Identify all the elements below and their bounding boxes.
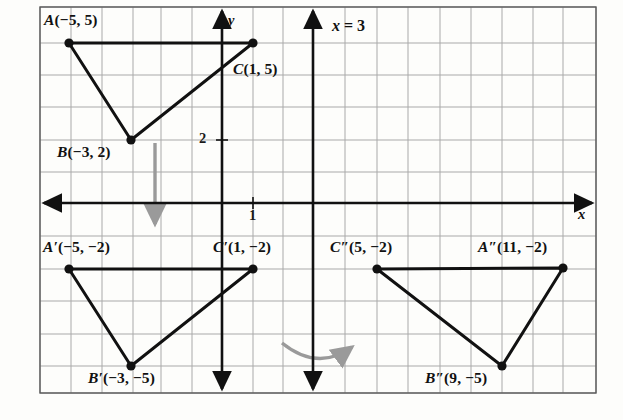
reflect-curve-arrow [282, 343, 352, 359]
mirror-line-equation-rest: = 3 [340, 17, 365, 34]
grid-lines [40, 7, 596, 393]
x-tick-label-1: 1 [249, 207, 256, 224]
point-label-b-prime: B′(−3, −5) [88, 369, 155, 387]
vertex-a [64, 38, 73, 47]
point-label-a-double-prime-var: A″ [478, 238, 497, 255]
point-label-c-coords: (1, 5) [243, 60, 277, 77]
point-label-c-prime-coords: (1, −2) [228, 238, 271, 255]
grid-border [40, 7, 596, 393]
point-label-b: B(−3, 2) [57, 143, 111, 161]
point-label-c-var: C [233, 60, 243, 77]
point-label-b-coords: (−3, 2) [67, 143, 110, 160]
mirror-line-equation-var: x [332, 17, 340, 34]
vertex-b [126, 135, 135, 144]
point-label-a-prime-coords: (−5, −2) [58, 238, 110, 255]
x-axis-label: x [578, 206, 585, 223]
point-label-b-prime-coords: (−3, −5) [103, 369, 155, 386]
point-label-a-var: A [44, 11, 54, 28]
point-label-b-double-prime: B″(9, −5) [425, 369, 487, 387]
point-label-b-var: B [57, 143, 67, 160]
mirror-line-equation-label: x = 3 [332, 17, 365, 35]
point-label-a-prime-var: A′ [43, 238, 58, 255]
point-label-a: A(−5, 5) [44, 11, 98, 29]
vertex-b-double-prime [497, 361, 506, 370]
point-label-a-double-prime: A″(11, −2) [478, 238, 547, 256]
y-axis-label: y [228, 12, 234, 29]
point-label-b-prime-var: B′ [88, 369, 103, 386]
vertex-a-prime [64, 264, 73, 273]
point-label-c-prime-var: C′ [213, 238, 228, 255]
coordinate-plane-figure: A(−5, 5) B(−3, 2) C(1, 5) A′(−5, −2) B′(… [0, 0, 623, 420]
y-tick-label-2: 2 [199, 130, 206, 147]
vertex-c-prime [248, 264, 257, 273]
point-label-c-prime: C′(1, −2) [213, 238, 271, 256]
point-label-b-double-prime-var: B″ [425, 369, 444, 386]
triangle-second-image [372, 263, 567, 370]
point-label-a-coords: (−5, 5) [54, 11, 97, 28]
vertex-c [248, 38, 257, 47]
point-label-c-double-prime-coords: (5, −2) [349, 238, 392, 255]
point-label-c-double-prime-var: C″ [330, 238, 349, 255]
vertex-a-double-prime [558, 263, 567, 272]
point-label-b-double-prime-coords: (9, −5) [444, 369, 487, 386]
point-label-c-double-prime: C″(5, −2) [330, 238, 392, 256]
point-label-a-prime: A′(−5, −2) [43, 238, 110, 256]
geometry-canvas [0, 0, 623, 420]
vertex-c-double-prime [372, 264, 381, 273]
point-label-a-double-prime-coords: (11, −2) [497, 238, 547, 255]
point-label-c: C(1, 5) [233, 60, 278, 78]
